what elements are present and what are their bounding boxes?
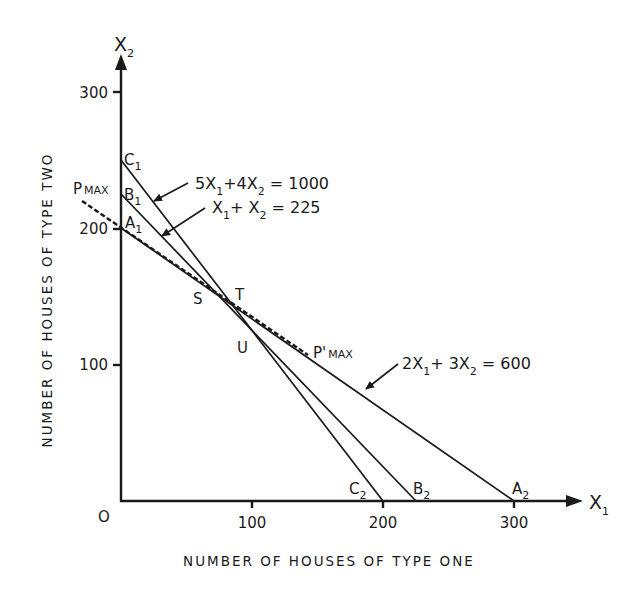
x-tick-label-300: 300 [500,514,529,532]
label-u: U [237,339,248,357]
objective-line-pmax [82,201,308,355]
label-c1: C1 [124,151,141,173]
equation-b: X1+ X2 = 225 [212,198,321,222]
arrow-to-line-c [154,183,188,201]
label-pmax: PMAX [73,180,109,198]
label-b2: B2 [413,480,430,502]
origin-label: O [98,508,110,526]
y-tick-label-100: 100 [79,356,108,374]
label-c2: C2 [349,480,366,502]
arrow-to-line-a [366,364,398,389]
y-axis-title: NUMBER OF HOUSES OF TYPE TWO [39,153,55,448]
x1-axis-symbol: X1 [589,491,609,518]
label-pmax-prime: P'MAX [313,344,353,362]
equation-a: 2X1+ 3X2 = 600 [402,354,531,378]
x-tick-label-200: 200 [369,514,398,532]
label-b1: B1 [124,186,141,208]
y-tick-label-300: 300 [79,84,108,102]
label-a2: A2 [512,480,529,502]
lp-feasibility-diagram: 100 200 300 100 200 300 O X1 X2 NUMBER O… [0,0,640,595]
equation-c: 5X1+4X2 = 1000 [195,174,329,198]
x2-axis-symbol: X2 [114,33,134,60]
x-tick-label-100: 100 [238,514,267,532]
y-tick-label-200: 200 [79,220,108,238]
label-s: S [193,290,203,308]
line-b-x1-x2-225 [121,194,416,501]
x-axis-arrowhead-icon [566,495,583,507]
label-t: T [234,286,245,304]
x-axis-title: NUMBER OF HOUSES OF TYPE ONE [183,553,475,569]
y-axis-arrowhead-icon [115,54,127,70]
